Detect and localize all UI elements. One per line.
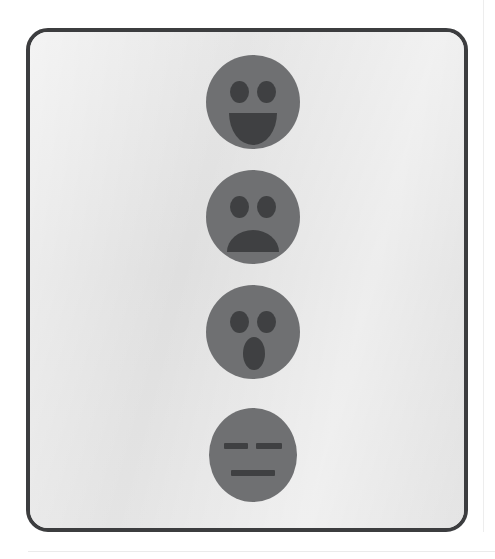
neutral-face-icon[interactable]: [209, 408, 297, 502]
left-eye: [230, 196, 249, 218]
happy-face-icon[interactable]: [206, 55, 300, 149]
image-canvas: [0, 0, 495, 559]
emoticon-face-column: [30, 32, 464, 528]
frown-mouth: [227, 230, 279, 252]
right-eye: [257, 311, 276, 333]
right-eye: [257, 81, 276, 103]
smile-mouth: [229, 113, 277, 145]
sad-face-icon[interactable]: [206, 170, 300, 264]
rounded-frame-panel: [26, 28, 468, 532]
right-eye: [256, 443, 282, 449]
page-rule-horizontal: [28, 551, 495, 552]
straight-mouth: [231, 470, 275, 476]
left-eye: [224, 443, 248, 449]
surprised-face-icon[interactable]: [206, 285, 300, 379]
page-rule-vertical: [483, 0, 484, 532]
left-eye: [230, 311, 249, 333]
panel-interior: [30, 32, 464, 528]
right-eye: [257, 196, 276, 218]
left-eye: [230, 81, 249, 103]
open-mouth: [243, 337, 265, 370]
